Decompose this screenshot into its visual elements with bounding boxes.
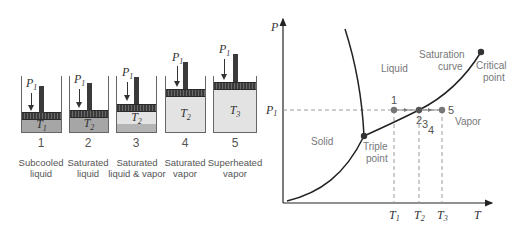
region-solid-label: Solid bbox=[311, 136, 333, 147]
point-1-label: 1 bbox=[391, 94, 397, 106]
state-point-5 bbox=[439, 107, 445, 113]
saturation-curve-label: Saturation bbox=[419, 49, 465, 60]
y-axis-label: P bbox=[270, 20, 279, 34]
fusion-curve bbox=[345, 29, 364, 136]
point-4-label: 4 bbox=[428, 124, 434, 136]
x-axis-label: T bbox=[474, 208, 482, 222]
triple-point-marker bbox=[361, 133, 367, 139]
critical-point-label: point bbox=[483, 72, 505, 83]
process-arrow-icon bbox=[404, 108, 408, 112]
point-5-label: 5 bbox=[448, 104, 454, 116]
triple-point-label: point bbox=[366, 153, 388, 164]
t2-tick-label: T2 bbox=[414, 208, 425, 223]
t3-tick-label: T3 bbox=[437, 208, 448, 223]
region-vapor-label: Vapor bbox=[455, 116, 482, 127]
critical-point-marker bbox=[478, 49, 484, 55]
p1-tick-label: P1 bbox=[265, 103, 277, 118]
state-point-2 bbox=[416, 107, 422, 113]
triple-point-label: Triple bbox=[363, 141, 388, 152]
process-arrow-icon bbox=[428, 108, 432, 112]
phase-diagram: P T P1 T1 T2 T3 Solid Liquid Vapor Satur… bbox=[0, 0, 521, 240]
t1-tick-label: T1 bbox=[389, 208, 400, 223]
state-point-1 bbox=[391, 107, 397, 113]
critical-point-label: Critical bbox=[476, 60, 507, 71]
region-liquid-label: Liquid bbox=[381, 63, 408, 74]
saturation-curve-label: curve bbox=[438, 61, 463, 72]
